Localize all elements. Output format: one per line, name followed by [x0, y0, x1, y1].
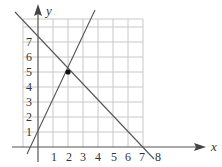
y-tick-labels: 1 2 3 4 5 6 7	[26, 35, 32, 139]
x-tick-3: 3	[80, 150, 86, 164]
coordinate-plane: x y 1 2 3 4 5 6 7 8 1 2 3 4 5 6 7	[0, 0, 222, 167]
x-tick-labels: 1 2 3 4 5 6 7 8	[51, 150, 161, 164]
x-tick-6: 6	[125, 150, 131, 164]
x-tick-8: 8	[155, 150, 161, 164]
x-axis-label: x	[210, 139, 217, 154]
y-tick-7: 7	[26, 35, 32, 49]
y-axis-label: y	[44, 3, 52, 18]
y-tick-5: 5	[26, 65, 32, 79]
x-tick-1: 1	[51, 150, 57, 164]
line-y-equals-neg-x-plus-7	[15, 12, 154, 159]
y-tick-4: 4	[26, 80, 32, 94]
x-tick-5: 5	[111, 150, 117, 164]
y-tick-1: 1	[26, 125, 32, 139]
y-tick-6: 6	[26, 50, 32, 64]
y-tick-3: 3	[26, 95, 32, 109]
x-tick-2: 2	[66, 150, 72, 164]
y-tick-2: 2	[26, 110, 32, 124]
x-tick-7: 7	[139, 150, 145, 164]
x-tick-4: 4	[95, 150, 101, 164]
intersection-point	[65, 69, 70, 74]
